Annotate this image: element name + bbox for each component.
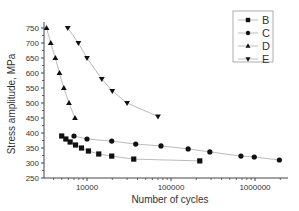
legend-label: C — [262, 27, 270, 39]
square-marker — [68, 139, 73, 144]
circle-marker — [71, 133, 76, 138]
s-n-chart: 2503003504004505005506006507007501000010… — [0, 0, 299, 211]
square-marker — [246, 18, 250, 22]
circle-marker — [246, 31, 250, 35]
series-c — [71, 133, 282, 162]
series-line — [68, 28, 158, 117]
x-tick-label: 100000 — [158, 183, 185, 192]
y-tick-label: 450 — [26, 114, 40, 123]
legend-label: B — [262, 14, 269, 26]
series-line — [74, 136, 279, 160]
triangle-up-marker — [57, 70, 63, 75]
circle-marker — [109, 139, 114, 144]
y-tick-label: 550 — [26, 84, 40, 93]
triangle-up-marker — [44, 25, 50, 30]
triangle-up-marker — [48, 40, 54, 45]
square-marker — [109, 154, 114, 159]
x-tick-label: 1000000 — [239, 183, 271, 192]
circle-marker — [238, 154, 243, 159]
triangle-up-marker — [66, 100, 72, 105]
y-tick-label: 350 — [26, 144, 40, 153]
square-marker — [131, 157, 136, 162]
triangle-down-marker — [109, 89, 115, 94]
legend: BCDE — [233, 11, 273, 65]
y-tick-label: 250 — [26, 174, 40, 183]
x-axis-label: Number of cycles — [131, 194, 208, 205]
series-d — [44, 25, 78, 120]
triangle-down-marker — [155, 114, 161, 119]
triangle-down-marker — [76, 41, 82, 46]
circle-marker — [277, 157, 282, 162]
square-marker — [73, 142, 78, 147]
square-marker — [79, 145, 84, 150]
y-tick-label: 700 — [26, 39, 40, 48]
y-tick-label: 750 — [26, 24, 40, 33]
circle-marker — [252, 154, 257, 159]
legend-label: E — [262, 53, 269, 65]
circle-marker — [133, 142, 138, 147]
triangle-up-marker — [72, 115, 78, 120]
triangle-up-marker — [61, 85, 67, 90]
circle-marker — [84, 136, 89, 141]
y-axis-label: Stress amplitude, MPa — [6, 53, 17, 154]
y-tick-label: 600 — [26, 69, 40, 78]
square-marker — [96, 151, 101, 156]
triangle-up-marker — [52, 55, 58, 60]
y-tick-label: 400 — [26, 129, 40, 138]
circle-marker — [158, 143, 163, 148]
legend-label: D — [262, 40, 270, 52]
series-e — [65, 26, 161, 120]
y-tick-label: 300 — [26, 159, 40, 168]
y-tick-label: 650 — [26, 54, 40, 63]
square-marker — [197, 158, 202, 163]
circle-marker — [207, 149, 212, 154]
x-tick-label: 10000 — [76, 183, 99, 192]
y-tick-label: 500 — [26, 99, 40, 108]
circle-marker — [186, 146, 191, 151]
square-marker — [86, 148, 91, 153]
